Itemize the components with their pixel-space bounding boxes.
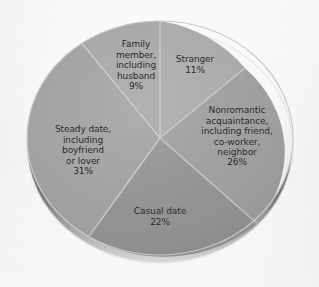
pie-label-stranger-text: Stranger: [176, 54, 214, 64]
pie-chart-figure: Family member, including husband9% Stran…: [0, 0, 319, 287]
pie-label-family-member-percent: 9%: [108, 81, 164, 91]
pie-label-steady-date-percent: 31%: [36, 166, 130, 176]
pie-label-nonromantic-percent: 26%: [185, 157, 289, 167]
pie-label-stranger: Stranger11%: [165, 44, 225, 86]
pie-label-nonromantic-text: Nonromantic acquaintance, including frie…: [201, 105, 272, 157]
pie-label-casual-date-text: Casual date: [134, 206, 186, 216]
pie-label-steady-date-text: Steady date, including boyfriend or love…: [55, 124, 111, 165]
pie-label-casual-date-percent: 22%: [117, 217, 203, 227]
pie-label-casual-date: Casual date22%: [117, 196, 203, 238]
pie-label-steady-date: Steady date, including boyfriend or love…: [36, 114, 130, 187]
pie-label-stranger-percent: 11%: [165, 65, 225, 75]
pie-label-family-member-text: Family member, including husband: [116, 39, 156, 80]
pie-label-nonromantic: Nonromantic acquaintance, including frie…: [185, 95, 289, 178]
pie-label-family-member: Family member, including husband9%: [108, 29, 164, 102]
